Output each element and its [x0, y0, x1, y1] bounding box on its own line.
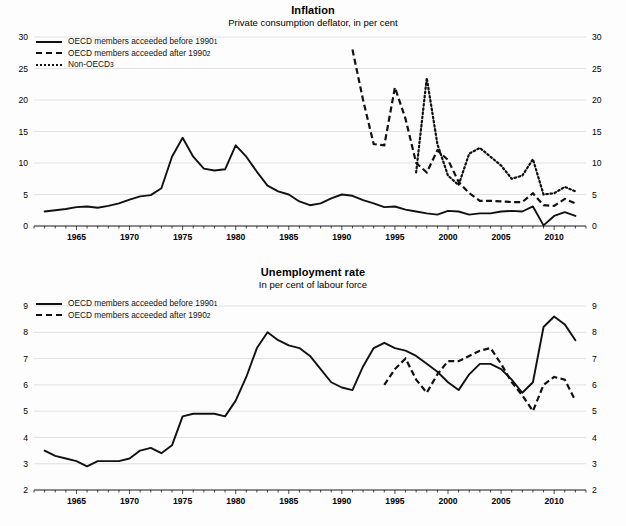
y-axis-tick-label-left: 3 [23, 459, 28, 469]
legend-note-u-oecd-after-1990: 2 [207, 310, 211, 322]
x-axis-tick-label: 1990 [332, 232, 351, 242]
series-line-dotted [416, 78, 575, 195]
unemployment-legend: OECD members acceeded before 19901 OECD … [36, 298, 217, 321]
x-axis-tick-label: 1985 [279, 496, 298, 506]
y-axis-tick-label-right: 2 [592, 485, 597, 495]
y-axis-tick-label-left: 0 [23, 221, 28, 231]
x-axis-tick-label: 2005 [492, 232, 511, 242]
y-axis-tick-label-left: 4 [23, 433, 28, 443]
legend-item-u-oecd-after-1990: OECD members acceeded after 19902 [36, 310, 217, 322]
inflation-chart-panel: Inflation Private consumption deflator, … [0, 0, 626, 258]
y-axis-tick-label-right: 15 [592, 127, 602, 137]
inflation-title-block: Inflation Private consumption deflator, … [0, 0, 626, 28]
unemployment-title-block: Unemployment rate In per cent of labour … [0, 258, 626, 290]
legend-note-non-oecd: 3 [110, 59, 114, 71]
unemployment-chart-panel: Unemployment rate In per cent of labour … [0, 258, 626, 526]
x-axis-tick-label: 1970 [120, 496, 139, 506]
inflation-plot-area: 0055101015152020252530301965197019751980… [0, 28, 626, 243]
series-line-solid [45, 138, 576, 226]
series-line-dashed [384, 348, 575, 411]
y-axis-tick-label-right: 30 [592, 32, 602, 42]
legend-note-oecd-after-1990: 2 [207, 48, 211, 60]
x-axis-tick-label: 1980 [226, 496, 245, 506]
y-axis-tick-label-left: 2 [23, 485, 28, 495]
y-axis-tick-label-left: 7 [23, 354, 28, 364]
x-axis-tick-label: 2010 [545, 496, 564, 506]
legend-note-u-oecd-before-1990: 1 [214, 298, 218, 310]
x-axis-tick-label: 1995 [385, 496, 404, 506]
y-axis-tick-label-left: 5 [23, 406, 28, 416]
inflation-title: Inflation [0, 4, 626, 16]
y-axis-tick-label-right: 7 [592, 354, 597, 364]
y-axis-tick-label-left: 6 [23, 380, 28, 390]
chart-page: Inflation Private consumption deflator, … [0, 0, 626, 526]
x-axis-tick-label: 1975 [173, 496, 192, 506]
y-axis-tick-label-left: 8 [23, 327, 28, 337]
x-axis-tick-label: 2005 [492, 496, 511, 506]
y-axis-tick-label-right: 9 [592, 301, 597, 311]
legend-item-oecd-before-1990: OECD members acceeded before 19901 [36, 36, 217, 48]
y-axis-tick-label-right: 10 [592, 158, 602, 168]
y-axis-tick-label-left: 9 [23, 301, 28, 311]
unemployment-plot-area: 2233445566778899196519701975198019851990… [0, 290, 626, 515]
legend-note-oecd-before-1990: 1 [214, 36, 218, 48]
y-axis-tick-label-left: 30 [18, 32, 28, 42]
y-axis-tick-label-right: 3 [592, 459, 597, 469]
y-axis-tick-label-right: 5 [592, 406, 597, 416]
legend-key-dotted-line-icon [36, 60, 62, 70]
y-axis-tick-label-right: 4 [592, 433, 597, 443]
x-axis-tick-label: 1980 [226, 232, 245, 242]
legend-label-u-oecd-after-1990: OECD members acceeded after 1990 [68, 310, 207, 322]
y-axis-tick-label-left: 20 [18, 95, 28, 105]
series-line-solid [45, 317, 576, 467]
inflation-subtitle: Private consumption deflator, in per cen… [0, 16, 626, 28]
inflation-legend: OECD members acceeded before 19901 OECD … [36, 36, 217, 71]
x-axis-tick-label: 1975 [173, 232, 192, 242]
x-axis-tick-label: 1995 [385, 232, 404, 242]
x-axis-tick-label: 1965 [67, 496, 86, 506]
unemployment-title: Unemployment rate [0, 266, 626, 278]
legend-item-oecd-after-1990: OECD members acceeded after 19902 [36, 48, 217, 60]
y-axis-tick-label-left: 25 [18, 64, 28, 74]
y-axis-tick-label-right: 6 [592, 380, 597, 390]
y-axis-tick-label-left: 15 [18, 127, 28, 137]
legend-key-solid-line-icon [36, 299, 62, 309]
x-axis-tick-label: 1990 [332, 496, 351, 506]
y-axis-tick-label-right: 8 [592, 327, 597, 337]
legend-item-u-oecd-before-1990: OECD members acceeded before 19901 [36, 298, 217, 310]
y-axis-tick-label-right: 0 [592, 221, 597, 231]
unemployment-plot-svg: 2233445566778899196519701975198019851990… [0, 290, 626, 515]
legend-label-u-oecd-before-1990: OECD members acceeded before 1990 [68, 298, 214, 310]
y-axis-tick-label-left: 5 [23, 190, 28, 200]
legend-key-dashed-line-icon [36, 310, 62, 320]
legend-item-non-oecd: Non-OECD3 [36, 59, 217, 71]
y-axis-tick-label-right: 25 [592, 64, 602, 74]
legend-key-dashed-line-icon [36, 48, 62, 58]
x-axis-tick-label: 2000 [438, 496, 457, 506]
x-axis-tick-label: 1985 [279, 232, 298, 242]
x-axis-tick-label: 2000 [438, 232, 457, 242]
unemployment-subtitle: In per cent of labour force [0, 278, 626, 290]
legend-label-oecd-after-1990: OECD members acceeded after 1990 [68, 48, 207, 60]
legend-key-solid-line-icon [36, 37, 62, 47]
x-axis-tick-label: 2010 [545, 232, 564, 242]
legend-label-oecd-before-1990: OECD members acceeded before 1990 [68, 36, 214, 48]
y-axis-tick-label-right: 5 [592, 190, 597, 200]
y-axis-tick-label-right: 20 [592, 95, 602, 105]
x-axis-tick-label: 1970 [120, 232, 139, 242]
series-line-dashed [352, 50, 575, 206]
y-axis-tick-label-left: 10 [18, 158, 28, 168]
legend-label-non-oecd: Non-OECD [68, 59, 110, 71]
x-axis-tick-label: 1965 [67, 232, 86, 242]
